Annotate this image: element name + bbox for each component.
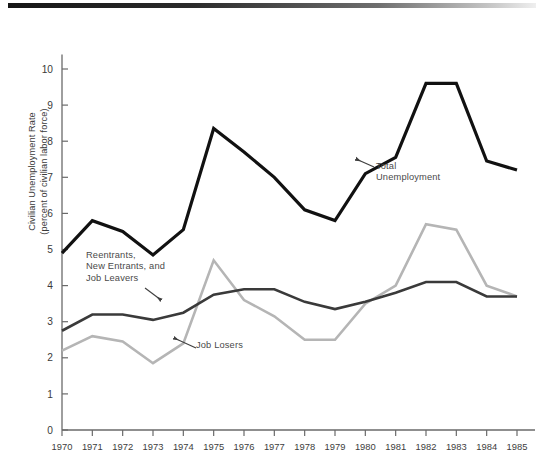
x-axis-tick-label: 1974 (173, 441, 194, 452)
x-axis-tick-label: 1973 (143, 441, 164, 452)
series-line-job-losers (62, 224, 517, 363)
x-axis-tick-label: 1971 (82, 441, 103, 452)
y-axis-tick-label: 3 (47, 316, 53, 327)
x-axis-tick-label: 1983 (446, 441, 467, 452)
x-axis-tick-label: 1976 (234, 441, 255, 452)
x-axis-tick-label: 1984 (476, 441, 497, 452)
annotation-leader-total (356, 159, 374, 167)
x-axis-tick-label: 1979 (325, 441, 346, 452)
x-axis-tick-label: 1975 (203, 441, 224, 452)
x-axis-tick-label: 1981 (385, 441, 406, 452)
x-axis-tick-label: 1978 (294, 441, 315, 452)
line-chart-plot: 0123456789101970197119721973197419751976… (0, 0, 541, 458)
series-line-reentrants-new-entrants-and-job-leavers (62, 282, 517, 331)
y-axis-tick-label: 8 (47, 136, 53, 147)
chart-figure: Civilian Unemployment Rate (percent of c… (0, 0, 541, 458)
x-axis-tick-label: 1982 (416, 441, 437, 452)
x-axis-tick-label: 1972 (112, 441, 133, 452)
y-axis-tick-label: 10 (42, 64, 54, 75)
y-axis-tick-label: 5 (47, 244, 53, 255)
y-axis-tick-label: 7 (47, 172, 53, 183)
y-axis-tick-label: 6 (47, 208, 53, 219)
annotation-leader-reentrants (145, 288, 161, 300)
annotation-total-unemployment-label: Total Unemployment (376, 161, 440, 184)
x-axis-tick-label: 1977 (264, 441, 285, 452)
x-axis-tick-label: 1985 (507, 441, 528, 452)
y-axis-tick-label: 2 (47, 352, 53, 363)
annotation-job-losers-label: Job Losers (196, 340, 243, 351)
y-axis-tick-label: 9 (47, 100, 53, 111)
y-axis-tick-label: 4 (47, 280, 53, 291)
annotation-reentrants-label: Reentrants, New Entrants, and Job Leaver… (86, 250, 165, 284)
y-axis-tick-label: 1 (47, 389, 53, 400)
x-axis-tick-label: 1970 (52, 441, 73, 452)
y-axis-tick-label: 0 (47, 425, 53, 436)
x-axis-tick-label: 1980 (355, 441, 376, 452)
